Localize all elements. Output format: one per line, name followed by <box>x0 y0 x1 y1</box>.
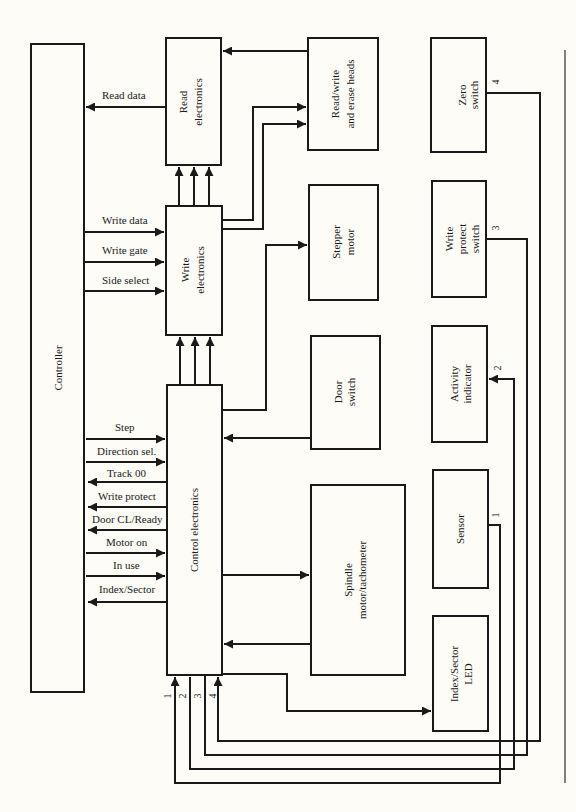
signal-write-gate: Write gate <box>85 244 164 262</box>
block-diagram: Controller Read electronics Read/write a… <box>0 0 576 812</box>
line-number-4-zero: 4 <box>490 80 501 85</box>
write-protect-label: Write protect <box>98 490 156 502</box>
signal-door-cl-ready: Door CL/Ready <box>88 513 167 530</box>
signal-step: Step <box>86 421 165 439</box>
activity-indicator-label-1: Activity <box>448 365 460 402</box>
signal-write-protect: Write protect <box>88 490 167 507</box>
door-switch-label-2: switch <box>345 377 357 406</box>
door-cl-ready-label: Door CL/Ready <box>92 513 163 525</box>
motor-on-label: Motor on <box>106 536 148 548</box>
signal-index-sector: Index/Sector <box>88 583 167 602</box>
spindle-motor-block: Spindle motor/tachometer <box>311 485 405 675</box>
signal-direction-sel: Direction sel. <box>86 445 165 462</box>
controller-block: Controller <box>31 44 84 692</box>
control-electronics-block: Control electronics <box>167 385 222 675</box>
control-electronics-label: Control electronics <box>188 488 200 572</box>
write-gate-label: Write gate <box>102 244 148 256</box>
rw-heads-block: Read/write and erase heads <box>308 38 378 150</box>
activity-indicator-block: Activity indicator <box>432 326 487 442</box>
activity-indicator-label-2: indicator <box>461 364 473 403</box>
signal-motor-on: Motor on <box>86 536 165 553</box>
line-number-2-bottom: 2 <box>177 694 188 699</box>
zero-switch-block: Zero switch <box>431 38 486 152</box>
in-use-label: In use <box>113 559 140 571</box>
door-switch-block: Door switch <box>311 336 380 449</box>
index-sector-label: Index/Sector <box>99 583 156 595</box>
signal-in-use: In use <box>86 559 165 576</box>
line-number-4-bottom: 4 <box>207 694 218 699</box>
read-electronics-label-1: Read <box>177 90 189 113</box>
zero-switch-label-1: Zero <box>456 84 468 105</box>
door-switch-label-1: Door <box>332 380 344 403</box>
sensor-label: Sensor <box>454 514 466 544</box>
index-sector-led-label-2: LED <box>462 663 474 684</box>
write-data-label: Write data <box>102 214 148 226</box>
write-protect-switch-label-1: Write <box>443 227 455 252</box>
line-number-3-bottom: 3 <box>192 694 203 699</box>
line-number-2-activity: 2 <box>492 366 503 371</box>
side-select-label: Side select <box>102 274 149 286</box>
write-protect-switch-label-3: switch <box>469 224 481 253</box>
direction-sel-label: Direction sel. <box>97 445 157 457</box>
spindle-motor-label-1: Spindle <box>342 563 354 597</box>
write-electronics-block: Write electronics <box>166 206 222 335</box>
track-00-label: Track 00 <box>107 467 147 479</box>
stepper-motor-label-1: Stepper <box>330 225 342 259</box>
signal-write-data: Write data <box>85 214 164 232</box>
control-to-stepper-arrow <box>222 245 307 410</box>
rw-heads-label-1: Read/write <box>329 70 341 118</box>
line-number-1-bottom: 1 <box>162 694 173 699</box>
control-to-led-arrow <box>222 674 431 711</box>
step-label: Step <box>115 421 135 433</box>
line-number-3-write-protect: 3 <box>490 226 501 231</box>
write-electronics-label-2: electronics <box>194 246 206 294</box>
write-protect-switch-block: Write protect switch <box>432 181 486 297</box>
zero-switch-label-2: switch <box>468 80 480 109</box>
controller-label: Controller <box>52 345 64 391</box>
sensor-block: Sensor <box>433 470 488 588</box>
read-electronics-label-2: electronics <box>192 78 204 126</box>
signal-side-select: Side select <box>85 274 164 291</box>
index-sector-led-block: Index/Sector LED <box>433 616 488 731</box>
read-data-label: Read data <box>102 89 146 101</box>
read-electronics-block: Read electronics <box>166 38 221 165</box>
index-sector-led-label-1: Index/Sector <box>448 646 460 703</box>
write-protect-switch-label-2: protect <box>456 224 468 255</box>
write-electronics-label-1: Write <box>179 258 191 283</box>
line-number-1-sensor: 1 <box>490 513 501 518</box>
stepper-motor-block: Stepper motor <box>309 185 378 300</box>
write-to-heads-arrow-2 <box>222 124 306 229</box>
rw-heads-label-2: and erase heads <box>344 59 356 128</box>
spindle-motor-label-2: motor/tachometer <box>356 541 368 620</box>
stepper-motor-label-2: motor <box>344 229 356 256</box>
signal-track-00: Track 00 <box>88 467 167 482</box>
signal-read-data: Read data <box>86 89 166 107</box>
